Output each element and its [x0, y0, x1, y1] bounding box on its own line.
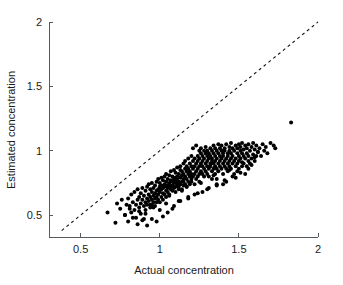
data-point	[131, 200, 135, 204]
data-point	[289, 120, 293, 124]
data-point	[245, 146, 249, 150]
data-point	[139, 202, 143, 206]
data-point	[155, 200, 159, 204]
data-point	[261, 142, 265, 146]
data-point	[212, 173, 216, 177]
data-point	[140, 218, 144, 222]
data-point	[257, 146, 261, 150]
data-point	[200, 190, 204, 194]
x-tick-label: 1.5	[231, 243, 246, 255]
data-point	[202, 156, 206, 160]
data-point	[204, 145, 208, 149]
x-axis-title: Actual concentration	[134, 264, 234, 276]
data-point	[246, 167, 250, 171]
data-point	[115, 202, 119, 206]
data-point	[185, 185, 189, 189]
data-point	[177, 199, 181, 203]
data-point	[256, 150, 260, 154]
plot-canvas: 0.511.52 0.511.52 Actual concentration E…	[0, 0, 343, 285]
data-point	[106, 211, 110, 215]
data-point	[197, 156, 201, 160]
data-point	[139, 191, 143, 195]
data-point	[215, 177, 219, 181]
data-point	[153, 184, 157, 188]
data-point	[259, 154, 263, 158]
data-point	[250, 145, 254, 149]
data-point	[144, 208, 148, 212]
data-point	[227, 168, 231, 172]
data-point	[167, 194, 171, 198]
data-point	[120, 198, 124, 202]
data-point	[262, 149, 266, 153]
data-point	[128, 207, 132, 211]
data-point	[189, 180, 193, 184]
data-point	[231, 154, 235, 158]
data-point	[238, 156, 242, 160]
data-point	[142, 194, 146, 198]
data-point	[140, 186, 144, 190]
data-point	[137, 209, 141, 213]
data-point	[253, 159, 257, 163]
data-point	[183, 159, 187, 163]
data-point	[199, 181, 203, 185]
data-point	[155, 220, 159, 224]
data-point	[150, 217, 154, 221]
data-point	[174, 190, 178, 194]
data-point	[226, 154, 230, 158]
data-point	[210, 177, 214, 181]
data-point	[229, 141, 233, 145]
data-point	[129, 193, 133, 197]
data-point	[132, 190, 136, 194]
data-point	[164, 202, 168, 206]
x-tick-label: 0.5	[73, 243, 88, 255]
data-point	[254, 144, 258, 148]
data-point	[131, 216, 135, 220]
data-point	[251, 141, 255, 145]
y-tick-label: 0.5	[27, 209, 42, 221]
data-point	[264, 145, 268, 149]
data-point	[235, 169, 239, 173]
data-point	[150, 181, 154, 185]
data-point	[136, 187, 140, 191]
data-point	[178, 164, 182, 168]
data-point	[113, 221, 117, 225]
data-point	[253, 155, 257, 159]
data-point	[221, 172, 225, 176]
data-point	[202, 174, 206, 178]
y-tick-label: 2	[36, 16, 42, 28]
data-point	[243, 172, 247, 176]
data-point	[265, 151, 269, 155]
data-point	[240, 160, 244, 164]
data-point	[126, 196, 130, 200]
data-point	[172, 204, 176, 208]
data-point	[250, 163, 254, 167]
data-point	[240, 141, 244, 145]
data-point	[216, 169, 220, 173]
data-point	[126, 220, 130, 224]
data-point	[221, 182, 225, 186]
scatter-points	[106, 120, 294, 227]
y-tick-labels: 0.511.52	[27, 16, 42, 221]
y-tick-label: 1	[36, 145, 42, 157]
data-point	[129, 211, 133, 215]
y-tick-label: 1.5	[27, 80, 42, 92]
data-point	[145, 223, 149, 227]
data-point	[123, 213, 127, 217]
data-point	[199, 146, 203, 150]
data-point	[205, 187, 209, 191]
data-point	[215, 156, 219, 160]
data-point	[221, 154, 225, 158]
data-point	[273, 146, 277, 150]
data-point	[158, 208, 162, 212]
data-point	[253, 147, 257, 151]
y-axis-title: Estimated concentration	[5, 71, 17, 189]
data-point	[180, 189, 184, 193]
data-point	[246, 142, 250, 146]
data-point	[219, 167, 223, 171]
data-point	[132, 208, 136, 212]
data-point	[186, 195, 190, 199]
data-point	[186, 156, 190, 160]
data-point	[191, 146, 195, 150]
data-point	[144, 189, 148, 193]
data-point	[189, 154, 193, 158]
